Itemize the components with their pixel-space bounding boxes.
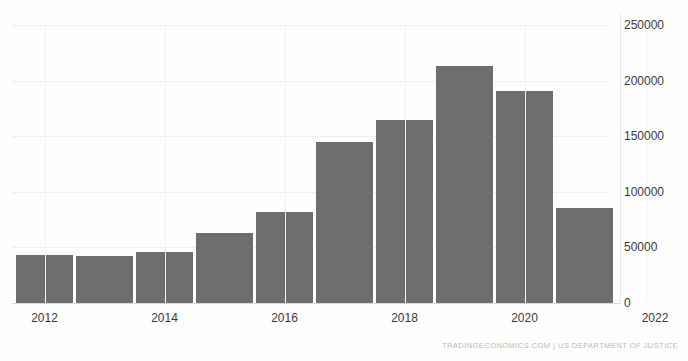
- y-tick-label: 0: [624, 297, 686, 309]
- gridline-vertical: [405, 25, 406, 303]
- x-tick-label: 2014: [151, 311, 178, 325]
- cut-off-title: [0, 0, 688, 10]
- bar-2021[interactable]: [556, 208, 613, 303]
- plot-area: [12, 25, 610, 303]
- x-tick-label: 2016: [271, 311, 298, 325]
- y-tick-label: 200000: [624, 75, 686, 87]
- x-axis-labels: 201220142016201820202022: [0, 311, 688, 331]
- gridline-vertical: [525, 25, 526, 303]
- chart-attribution: TRADINGECONOMICS.COM | US DEPARTMENT OF …: [442, 341, 678, 350]
- bar-2015[interactable]: [196, 233, 253, 303]
- bar-2019[interactable]: [436, 66, 493, 303]
- y-tick-label: 250000: [624, 19, 686, 31]
- gridline-horizontal: [12, 81, 610, 82]
- y-tick-label: 100000: [624, 186, 686, 198]
- gridline-vertical: [45, 25, 46, 303]
- bar-2013[interactable]: [76, 256, 133, 303]
- x-tick-label: 2020: [511, 311, 538, 325]
- y-tick-label: 150000: [624, 130, 686, 142]
- gridline-vertical: [165, 25, 166, 303]
- x-axis-baseline: [12, 303, 621, 304]
- y-axis-line: [620, 13, 621, 304]
- bar-2017[interactable]: [316, 142, 373, 303]
- x-tick-label: 2018: [391, 311, 418, 325]
- gridline-vertical: [285, 25, 286, 303]
- y-axis-labels: 050000100000150000200000250000: [624, 0, 686, 330]
- bar-chart: 050000100000150000200000250000 201220142…: [0, 0, 688, 361]
- y-tick-label: 50000: [624, 241, 686, 253]
- x-tick-label: 2012: [31, 311, 58, 325]
- gridline-horizontal: [12, 25, 610, 26]
- x-tick-label: 2022: [642, 311, 669, 325]
